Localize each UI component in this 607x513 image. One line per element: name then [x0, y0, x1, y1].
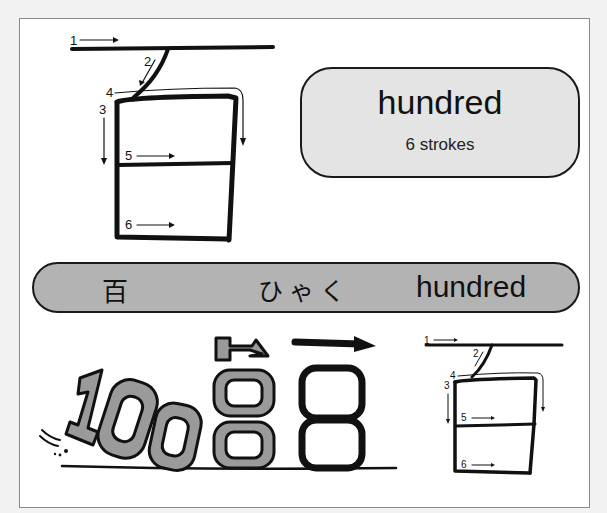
stroke-label-6: 6: [125, 217, 132, 232]
stroke-order-diagram-small: 1 2 3 4 5 6: [410, 330, 600, 490]
stroke-label-4: 4: [106, 85, 113, 100]
kanji-reading: ひゃく: [258, 271, 351, 307]
mnemonic-illustration: [0, 320, 420, 490]
meaning-card: hundred 6 strokes: [300, 67, 580, 178]
kanji-character: 百: [102, 271, 128, 308]
small-stroke-label-1: 1: [424, 335, 430, 346]
small-stroke-label-2: 2: [473, 348, 479, 359]
kanji-banner: 百 ひゃく hundred: [32, 262, 580, 313]
stroke-label-3: 3: [99, 102, 106, 117]
stroke-count: 6 strokes: [302, 135, 578, 155]
kanji-meaning: hundred: [416, 270, 526, 304]
small-stroke-label-5: 5: [461, 412, 467, 423]
small-stroke-label-4: 4: [450, 370, 456, 381]
stroke-order-diagram-large: 1 2 3 4 5 6: [0, 0, 300, 250]
meaning-title: hundred: [302, 83, 578, 122]
stroke-label-2: 2: [144, 54, 151, 69]
small-stroke-label-3: 3: [444, 380, 450, 391]
small-stroke-label-6: 6: [461, 459, 467, 470]
stroke-label-1: 1: [70, 33, 77, 48]
stroke-label-5: 5: [125, 148, 132, 163]
